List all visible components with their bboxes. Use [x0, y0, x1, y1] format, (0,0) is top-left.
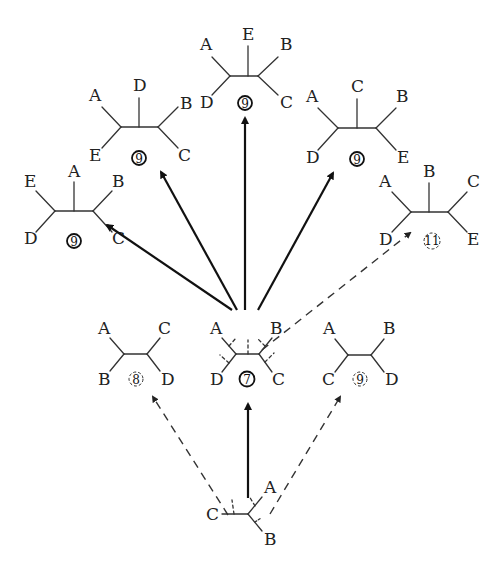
tree-four-center: A B D C 7: [209, 318, 285, 389]
taxon-label: B: [112, 171, 125, 191]
taxon-label: E: [24, 171, 36, 191]
taxon-label: C: [178, 145, 191, 165]
taxon-label: D: [133, 75, 147, 95]
tree-five-5: A B C D E 11: [378, 161, 480, 249]
taxon-label: B: [280, 34, 293, 54]
taxon-label: D: [161, 369, 175, 389]
taxon-label: D: [306, 147, 320, 167]
tree-five-3: A E B D C 9: [199, 24, 293, 112]
taxon-label: C: [158, 318, 171, 338]
parsimony-score: 8: [132, 373, 140, 387]
parsimony-score: 9: [356, 373, 364, 387]
tree-four-right: A B C D 9: [322, 318, 399, 389]
taxon-label: A: [263, 477, 277, 497]
taxon-label: E: [242, 24, 254, 44]
arrow-to-tree-four-left: [153, 397, 228, 515]
taxon-label: E: [467, 229, 479, 249]
taxon-label: C: [280, 92, 293, 112]
parsimony-score: 9: [353, 153, 361, 167]
taxon-label: A: [199, 34, 213, 54]
parsimony-score: 11: [424, 234, 439, 248]
taxon-label: B: [383, 318, 396, 338]
tree-start: C A B: [206, 477, 277, 549]
parsimony-score: 7: [243, 373, 251, 387]
tree-five-1: E A B D C 9: [24, 161, 125, 249]
taxon-label: D: [379, 229, 393, 249]
taxon-label: A: [378, 171, 392, 191]
tree-five-4: A C B D E 9: [305, 76, 409, 167]
arrow-to-tree-five-2: [161, 172, 237, 310]
taxon-label: A: [88, 85, 102, 105]
taxon-label: C: [272, 369, 285, 389]
taxon-label: A: [305, 86, 319, 106]
taxon-label: D: [24, 228, 38, 248]
taxon-label: C: [322, 369, 335, 389]
parsimony-score: 9: [135, 152, 143, 166]
taxon-label: B: [264, 529, 277, 549]
taxon-label: E: [89, 145, 101, 165]
taxon-label: C: [206, 504, 219, 524]
taxon-label: C: [467, 171, 480, 191]
taxon-label: A: [67, 161, 81, 181]
taxon-label: D: [210, 369, 224, 389]
arrow-to-tree-five-4: [258, 173, 333, 310]
taxon-label: D: [200, 92, 214, 112]
tree-four-left: A C B D 8: [97, 318, 175, 389]
taxon-label: A: [209, 318, 223, 338]
taxon-label: B: [423, 161, 436, 181]
taxon-label: A: [322, 318, 336, 338]
taxon-label: C: [351, 76, 364, 96]
taxon-label: B: [180, 93, 193, 113]
tree-five-2: A D B E C 9: [88, 75, 193, 166]
taxon-label: E: [397, 147, 409, 167]
arrow-to-tree-four-right: [270, 397, 340, 514]
tree-search-diagram: A E B D C 9 A D B E C 9 A C B D E 9: [0, 0, 501, 576]
taxon-label: B: [98, 369, 111, 389]
taxon-label: B: [396, 86, 409, 106]
parsimony-score: 9: [241, 97, 249, 111]
taxon-label: A: [97, 318, 111, 338]
taxon-label: B: [270, 318, 283, 338]
taxon-label: D: [385, 369, 399, 389]
parsimony-score: 9: [70, 235, 78, 249]
